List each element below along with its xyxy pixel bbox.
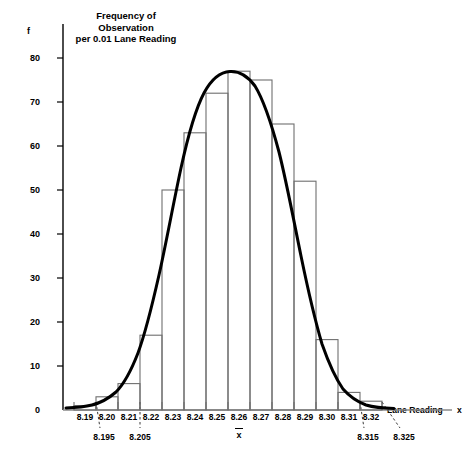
bar-8-29 [294, 181, 316, 410]
bar-8-27 [250, 80, 272, 410]
bar-8-24 [184, 133, 206, 410]
edge-callout-leaders [96, 402, 400, 428]
bar-8-23 [162, 190, 184, 410]
normal-curve [66, 71, 394, 408]
bar-8-25 [206, 93, 228, 410]
chart-plot [0, 0, 469, 467]
histogram-bars [74, 71, 382, 410]
bar-8-26 [228, 71, 250, 410]
y-tick-marks [57, 58, 63, 366]
chart-figure: Frequency of Observation per 0.01 Lane R… [0, 0, 469, 467]
bar-8-22 [140, 335, 162, 410]
